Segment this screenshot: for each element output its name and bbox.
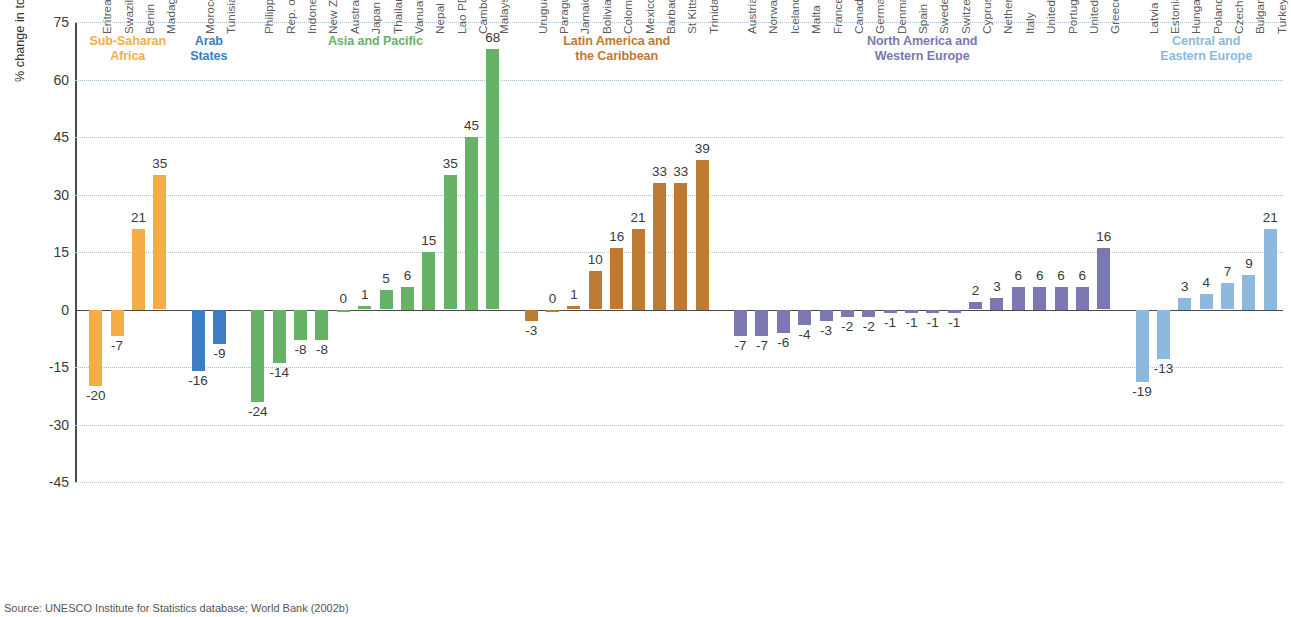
bar[interactable] xyxy=(798,310,811,325)
x-axis-category-label: Thailand xyxy=(391,0,405,34)
bar-value-label: -3 xyxy=(820,323,832,338)
bar[interactable] xyxy=(380,290,393,309)
bar[interactable] xyxy=(1033,287,1046,310)
bar[interactable] xyxy=(401,287,414,310)
x-axis-category-label: United Kingdom xyxy=(1044,0,1058,34)
bar-value-label: 10 xyxy=(588,252,603,267)
bar[interactable] xyxy=(653,183,666,310)
x-axis-category-label: Tunisia xyxy=(224,0,238,34)
bar[interactable] xyxy=(111,310,124,337)
bar-value-label: 21 xyxy=(1263,210,1278,225)
bar[interactable] xyxy=(948,310,961,314)
x-axis-category-label: New Zealand xyxy=(326,0,340,34)
bar-value-label: -9 xyxy=(213,346,225,361)
bar-value-label: 1 xyxy=(361,287,369,302)
bar[interactable] xyxy=(1264,229,1277,310)
bar-group-title: Sub-SaharanAfrica xyxy=(85,34,170,64)
bar[interactable] xyxy=(444,175,457,309)
x-axis-category-label: Mexico xyxy=(643,0,657,34)
bar[interactable] xyxy=(589,271,602,309)
bar[interactable] xyxy=(1178,298,1191,310)
bar[interactable] xyxy=(969,302,982,310)
y-tick-label: 0 xyxy=(61,301,69,317)
x-axis-category-label: Canada xyxy=(852,0,866,34)
bar[interactable] xyxy=(1200,294,1213,309)
x-axis-category-label: Nepal xyxy=(433,3,447,34)
bar[interactable] xyxy=(841,310,854,318)
bar[interactable] xyxy=(905,310,918,314)
bar[interactable] xyxy=(213,310,226,345)
bar[interactable] xyxy=(273,310,286,364)
bar-value-label: 9 xyxy=(1245,256,1253,271)
bar[interactable] xyxy=(1221,283,1234,310)
bar[interactable] xyxy=(153,175,166,309)
x-axis-category-label: Iceland xyxy=(788,0,802,34)
bar[interactable] xyxy=(990,298,1003,310)
bar[interactable] xyxy=(465,137,478,310)
x-axis-category-label: Japan xyxy=(369,2,383,34)
bar[interactable] xyxy=(632,229,645,310)
x-axis-category-label: Poland xyxy=(1211,0,1225,34)
bar[interactable] xyxy=(486,49,499,310)
bar[interactable] xyxy=(192,310,205,371)
bar-value-label: 16 xyxy=(1096,229,1111,244)
bar-value-label: 35 xyxy=(152,156,167,171)
bar[interactable] xyxy=(294,310,307,341)
x-axis-category-label: Swaziland xyxy=(122,0,136,34)
x-axis-category-label: Hungary xyxy=(1189,0,1203,34)
bar[interactable] xyxy=(777,310,790,333)
bar[interactable] xyxy=(734,310,747,337)
bar[interactable] xyxy=(422,252,435,310)
bar[interactable] xyxy=(884,310,897,314)
bar-value-label: -4 xyxy=(799,327,811,342)
bar[interactable] xyxy=(337,310,350,313)
bar[interactable] xyxy=(696,160,709,310)
bar-value-label: 33 xyxy=(673,164,688,179)
x-axis-category-label: Malaysia xyxy=(497,0,511,34)
bar-value-label: 4 xyxy=(1202,275,1210,290)
bar[interactable] xyxy=(1136,310,1149,383)
bar-value-label: -2 xyxy=(863,319,875,334)
bar-value-label: 35 xyxy=(443,156,458,171)
bar-value-label: -7 xyxy=(111,338,123,353)
bar-group-asia-and-pacific: Asia and Pacific-24Philippines-14Rep. of… xyxy=(247,22,503,482)
bar[interactable] xyxy=(674,183,687,310)
bar-group-title-line: States xyxy=(190,49,227,63)
bar[interactable] xyxy=(1055,287,1068,310)
bar-group-title: Latin America andthe Caribbean xyxy=(521,34,713,64)
bar[interactable] xyxy=(315,310,328,341)
bar[interactable] xyxy=(358,306,371,310)
bar-value-label: 6 xyxy=(1057,268,1065,283)
bar[interactable] xyxy=(1076,287,1089,310)
bar-value-label: 0 xyxy=(340,291,348,306)
bar-group-north-america-and-western-europe: North America andWestern Europe-7Austria… xyxy=(730,22,1115,482)
bar-value-label: -2 xyxy=(841,319,853,334)
bar[interactable] xyxy=(89,310,102,387)
bar[interactable] xyxy=(820,310,833,322)
bar[interactable] xyxy=(1157,310,1170,360)
x-axis-category-label: Morocco xyxy=(203,0,217,34)
bar-value-label: -1 xyxy=(884,315,896,330)
bar[interactable] xyxy=(755,310,768,337)
bar[interactable] xyxy=(546,310,559,313)
bar-value-label: 6 xyxy=(1036,268,1044,283)
bar[interactable] xyxy=(926,310,939,314)
bar[interactable] xyxy=(1242,275,1255,310)
bar[interactable] xyxy=(251,310,264,402)
bar-group-title-line: North America and xyxy=(867,34,978,48)
bar[interactable] xyxy=(1097,248,1110,309)
x-axis-category-label: Uruguay xyxy=(536,0,550,34)
bar-group-title-line: Arab xyxy=(195,34,223,48)
bar-value-label: -14 xyxy=(269,365,289,380)
bar[interactable] xyxy=(567,306,580,310)
bar-value-label: -6 xyxy=(777,335,789,350)
bar[interactable] xyxy=(862,310,875,318)
x-axis-category-label: Austria xyxy=(745,0,759,34)
y-tick-label: -45 xyxy=(49,474,69,490)
bar[interactable] xyxy=(132,229,145,310)
bar[interactable] xyxy=(610,248,623,309)
bar-value-label: 15 xyxy=(421,233,436,248)
bar[interactable] xyxy=(525,310,538,322)
bar[interactable] xyxy=(1012,287,1025,310)
bar-value-label: 3 xyxy=(993,279,1001,294)
